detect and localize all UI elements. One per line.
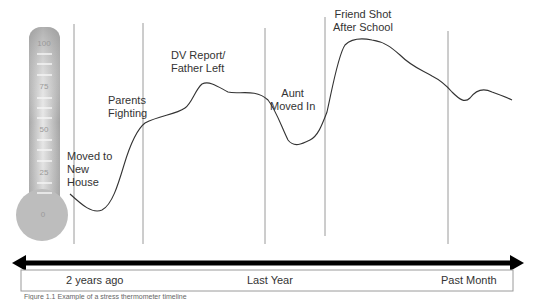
timeline-arrow (12, 255, 524, 271)
thermometer-label-0: 0 (41, 210, 46, 219)
event-label-friend-shot: Friend Shot After School (333, 8, 393, 34)
thermometer: 100 75 50 25 0 (16, 27, 68, 241)
figure-caption: Figure 1.1 Example of a stress thermomet… (24, 293, 187, 300)
timeline-label-2-years-ago: 2 years ago (66, 274, 123, 286)
event-label-aunt-moved: Aunt Moved In (270, 87, 315, 113)
distress-curve (70, 39, 512, 211)
event-markers (74, 17, 448, 244)
thermometer-label-25: 25 (40, 168, 49, 177)
arrow-left-head (12, 255, 26, 271)
arrow-right-head (510, 255, 524, 271)
event-label-parents-fighting: Parents Fighting (108, 94, 147, 120)
timeline-label-last-year: Last Year (247, 274, 293, 286)
thermometer-label-50: 50 (40, 125, 49, 134)
event-label-moved-house: Moved to New House (67, 150, 112, 189)
timeline-label-past-month: Past Month (441, 274, 497, 286)
thermometer-label-75: 75 (40, 82, 49, 91)
thermometer-label-100: 100 (37, 39, 51, 48)
event-label-dv-report: DV Report/ Father Left (171, 49, 225, 75)
